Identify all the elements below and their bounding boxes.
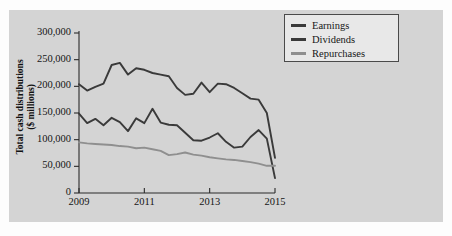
data-series-group xyxy=(79,63,275,178)
legend-swatch-dividends xyxy=(291,38,306,41)
legend-item-earnings: Earnings xyxy=(291,19,392,32)
axis-group xyxy=(79,31,275,193)
y-tick-label: 200,000 xyxy=(0,79,71,90)
x-tick-label: 2015 xyxy=(261,196,289,207)
legend-item-repurchases: Repurchases xyxy=(291,47,392,60)
y-tick-label: 0 xyxy=(0,186,71,197)
x-axis-ticks xyxy=(79,188,275,193)
legend-swatch-repurchases xyxy=(291,52,306,55)
x-tick-label: 2011 xyxy=(130,196,158,207)
legend-label-earnings: Earnings xyxy=(312,20,349,31)
series-line-dividends xyxy=(79,109,275,178)
y-tick-label: 150,000 xyxy=(0,106,71,117)
series-line-repurchases xyxy=(79,142,275,165)
legend-item-dividends: Dividends xyxy=(291,33,392,46)
x-tick-label: 2009 xyxy=(65,196,93,207)
chart-figure: Total cash distributions ($ millions) 05… xyxy=(0,0,452,236)
y-tick-label: 300,000 xyxy=(0,26,71,37)
y-tick-label: 250,000 xyxy=(0,53,71,64)
legend-label-repurchases: Repurchases xyxy=(312,48,365,59)
y-tick-label: 50,000 xyxy=(0,159,71,170)
legend-swatch-earnings xyxy=(291,24,306,27)
y-tick-label: 100,000 xyxy=(0,133,71,144)
x-tick-label: 2013 xyxy=(196,196,224,207)
chart-legend: Earnings Dividends Repurchases xyxy=(284,14,399,62)
legend-label-dividends: Dividends xyxy=(312,34,355,45)
